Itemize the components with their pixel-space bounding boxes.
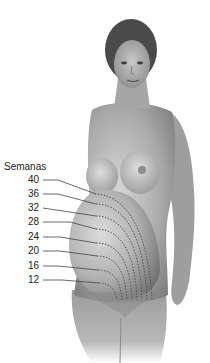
- left-breast: [86, 158, 118, 194]
- right-nipple: [138, 166, 146, 174]
- week-label-40: 40: [17, 175, 39, 185]
- face: [114, 40, 150, 88]
- week-label-24: 24: [17, 232, 39, 242]
- right-eye: [137, 62, 143, 65]
- left-eye: [121, 62, 127, 65]
- week-label-20: 20: [17, 246, 39, 256]
- week-label-16: 16: [17, 261, 39, 271]
- week-label-28: 28: [17, 217, 39, 227]
- week-label-36: 36: [17, 189, 39, 199]
- weeks-title: Semanas: [4, 162, 46, 172]
- week-label-32: 32: [17, 203, 39, 213]
- week-label-12: 12: [17, 275, 39, 285]
